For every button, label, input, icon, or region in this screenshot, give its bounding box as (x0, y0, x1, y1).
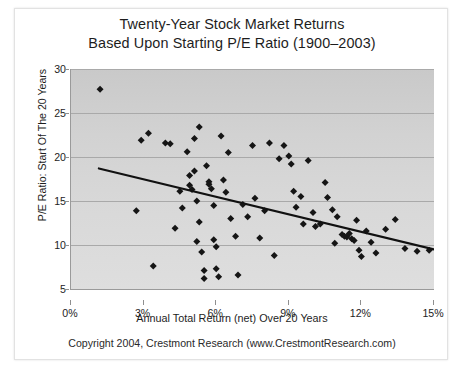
scatter-plot-svg (71, 69, 434, 289)
data-point (305, 157, 312, 164)
y-tick-mark (64, 69, 69, 70)
data-point (293, 204, 300, 211)
gridlines (71, 70, 434, 246)
data-point (220, 176, 227, 183)
x-tick-mark (360, 300, 361, 305)
data-point (222, 189, 229, 196)
data-point (290, 188, 297, 195)
data-point (179, 205, 186, 212)
data-point (186, 172, 193, 179)
x-axis-title: Annual Total Return (net) Over 20 Years (15, 312, 449, 324)
data-point (218, 132, 225, 139)
data-point (276, 155, 283, 162)
data-point (213, 243, 220, 250)
data-point (322, 179, 329, 186)
data-point (150, 263, 157, 270)
data-point (244, 213, 251, 220)
y-tick-label: 10 (32, 239, 66, 251)
data-point (353, 217, 360, 224)
chart-card: Twenty-Year Stock Market Returns Based U… (14, 8, 448, 360)
data-point (334, 213, 341, 220)
y-tick-label: 30 (32, 63, 66, 75)
y-tick-mark (64, 157, 69, 158)
data-point (167, 140, 174, 147)
data-point (97, 86, 104, 93)
data-point (310, 209, 317, 216)
y-tick-label: 25 (32, 107, 66, 119)
y-tick-mark (64, 201, 69, 202)
data-point (324, 194, 331, 201)
y-tick-mark (64, 245, 69, 246)
data-point (266, 139, 273, 146)
data-point (285, 153, 292, 160)
data-point (372, 249, 379, 256)
data-point (256, 234, 263, 241)
data-point (368, 239, 375, 246)
data-point (358, 253, 365, 260)
data-point (401, 245, 408, 252)
data-point (196, 124, 203, 131)
data-point (251, 195, 258, 202)
data-point (225, 149, 232, 156)
data-point (213, 265, 220, 272)
data-point (196, 219, 203, 226)
y-tick-label: 20 (32, 151, 66, 163)
data-point (133, 207, 140, 214)
x-tick-mark (70, 300, 71, 305)
data-point (198, 249, 205, 256)
data-point (234, 271, 241, 278)
data-point (193, 238, 200, 245)
data-point (145, 130, 152, 137)
data-point (232, 233, 239, 240)
data-point (191, 168, 198, 175)
plot-wrapper: P/E Ratio: Start Of The 20 Years 5101520… (15, 9, 449, 361)
data-points (97, 86, 433, 282)
data-point (201, 275, 208, 282)
x-tick-mark (143, 300, 144, 305)
data-point (249, 142, 256, 149)
x-tick-mark (433, 300, 434, 305)
data-point (210, 202, 217, 209)
data-point (191, 135, 198, 142)
data-point (215, 273, 222, 280)
data-point (288, 161, 295, 168)
data-point (184, 148, 191, 155)
x-tick-mark (215, 300, 216, 305)
data-point (329, 206, 336, 213)
data-point (297, 193, 304, 200)
data-point (355, 247, 362, 254)
data-point (392, 216, 399, 223)
y-tick-label: 15 (32, 195, 66, 207)
copyright-notice: Copyright 2004, Crestmont Research (www.… (15, 337, 449, 349)
data-point (227, 215, 234, 222)
data-point (172, 225, 179, 232)
y-tick-mark (64, 113, 69, 114)
data-point (300, 220, 307, 227)
data-point (271, 252, 278, 259)
plot-area (70, 69, 434, 290)
data-point (193, 198, 200, 205)
data-point (138, 137, 145, 144)
data-point (382, 226, 389, 233)
data-point (280, 142, 287, 149)
y-tick-mark (64, 289, 69, 290)
data-point (201, 267, 208, 274)
data-point (414, 248, 421, 255)
data-point (203, 162, 210, 169)
y-tick-label: 5 (32, 283, 66, 295)
data-point (210, 236, 217, 243)
x-tick-mark (288, 300, 289, 305)
trend-line (99, 168, 434, 249)
